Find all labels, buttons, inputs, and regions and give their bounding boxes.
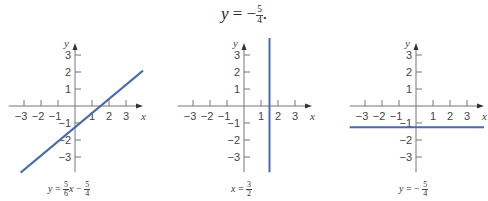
y-axis-arrow-icon xyxy=(73,43,78,50)
caption-chart-2: x = 32 xyxy=(231,181,252,198)
caption-chart-1: y = 56x − 54 xyxy=(48,181,90,198)
x-tick-label: −2 xyxy=(201,110,214,122)
y-tick-label: 1 xyxy=(406,83,412,95)
x-tick-label: −3 xyxy=(356,110,369,122)
x-tick-label: 2 xyxy=(275,110,281,122)
chart-2: −3−2−1123−3−2−1123xy xyxy=(178,37,315,172)
x-tick-label: 1 xyxy=(430,110,436,122)
fraction: 54 xyxy=(422,181,428,198)
y-tick-label: 1 xyxy=(65,83,71,95)
y-tick-label: 2 xyxy=(65,66,71,78)
y-axis-label: y xyxy=(404,37,410,49)
x-axis-arrow-icon xyxy=(136,104,143,109)
y-axis-label: y xyxy=(232,37,238,49)
x-axis-arrow-icon xyxy=(477,104,484,109)
x-tick-label: 3 xyxy=(123,110,129,122)
y-tick-label: −3 xyxy=(399,151,412,163)
plots-canvas: −3−2−1123−3−2−1123xy−3−2−1123−3−2−1123xy… xyxy=(0,0,488,201)
equals-sign: = xyxy=(55,183,61,194)
y-tick-label: −2 xyxy=(227,134,240,146)
equals-sign: = xyxy=(406,183,412,194)
x-tick-label: −2 xyxy=(32,110,45,122)
x-axis-label: x xyxy=(140,110,146,122)
y-tick-label: 2 xyxy=(406,66,412,78)
y-tick-label: 2 xyxy=(234,66,240,78)
y-axis-label: y xyxy=(63,37,69,49)
y-tick-label: 3 xyxy=(65,49,71,61)
x-tick-label: −2 xyxy=(373,110,386,122)
y-tick-label: −1 xyxy=(227,117,240,129)
chart-3: −3−2−1123−3−2−1123xy xyxy=(350,37,487,172)
denominator: 4 xyxy=(84,190,90,198)
fraction: 54 xyxy=(84,181,90,198)
caption-lhs: y xyxy=(48,183,52,194)
fraction: 32 xyxy=(246,181,252,198)
equals-sign: = xyxy=(238,183,244,194)
x-tick-label: −3 xyxy=(184,110,197,122)
y-tick-label: −2 xyxy=(399,134,412,146)
minus-sign: − xyxy=(76,183,82,194)
denominator: 2 xyxy=(246,190,252,198)
x-tick-label: 2 xyxy=(106,110,112,122)
y-tick-label: 3 xyxy=(406,49,412,61)
y-tick-label: −3 xyxy=(227,151,240,163)
variable: x xyxy=(69,183,73,194)
caption-lhs: y xyxy=(399,183,403,194)
x-axis-label: x xyxy=(481,110,487,122)
y-tick-label: 3 xyxy=(234,49,240,61)
y-tick-label: −3 xyxy=(58,151,71,163)
denominator: 4 xyxy=(422,190,428,198)
y-axis-arrow-icon xyxy=(242,43,247,50)
x-tick-label: 3 xyxy=(464,110,470,122)
y-axis-arrow-icon xyxy=(414,43,419,50)
x-tick-label: −3 xyxy=(15,110,28,122)
y-tick-label: 1 xyxy=(234,83,240,95)
minus-sign: − xyxy=(414,183,420,194)
caption-chart-3: y = − 54 xyxy=(399,181,428,198)
chart-1: −3−2−1123−3−2−1123xy xyxy=(9,37,146,173)
x-tick-label: 3 xyxy=(292,110,298,122)
x-axis-label: x xyxy=(309,110,315,122)
caption-lhs: x xyxy=(231,183,235,194)
y-tick-label: −1 xyxy=(58,117,71,129)
x-tick-label: 1 xyxy=(258,110,264,122)
x-axis-arrow-icon xyxy=(305,104,312,109)
x-tick-label: 2 xyxy=(447,110,453,122)
